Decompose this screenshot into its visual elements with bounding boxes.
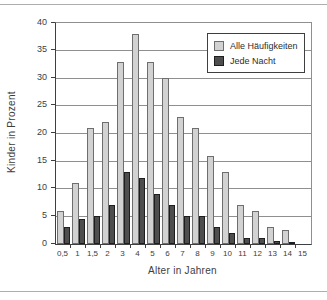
legend-swatch-icon [214, 41, 224, 51]
x-tick-label: 14 [280, 249, 296, 258]
y-tick-label: 15 [27, 156, 47, 165]
bar-jede-1 [79, 219, 85, 244]
top-rule [0, 4, 327, 5]
bar-alle-12 [252, 211, 259, 244]
bar-jede-12 [259, 238, 265, 244]
x-tick-mark [100, 245, 101, 248]
bar-jede-4 [139, 178, 145, 244]
x-tick-mark [85, 245, 86, 248]
x-tick-label: 7 [175, 249, 191, 258]
gridline-30 [56, 78, 311, 79]
legend-item-jede-nacht: Jede Nacht [214, 56, 298, 66]
x-tick-label: 9 [205, 249, 221, 258]
y-tick-mark [51, 187, 55, 188]
bar-alle-7 [177, 117, 184, 244]
gridline-25 [56, 105, 311, 106]
bar-alle-9 [207, 156, 214, 244]
bar-alle-2 [102, 122, 109, 244]
bar-alle-1 [72, 183, 79, 244]
bar-alle-10 [222, 172, 229, 244]
y-tick-mark [51, 104, 55, 105]
bar-jede-14 [289, 242, 295, 244]
bar-jede-13 [274, 241, 280, 244]
y-tick-label: 0 [27, 239, 47, 248]
legend-item-alle-haeufigkeiten: Alle Häufigkeiten [214, 41, 298, 51]
bar-alle-0,5 [57, 211, 64, 244]
bar-jede-5 [154, 194, 160, 244]
x-tick-label: 3 [115, 249, 131, 258]
y-tick-label: 20 [27, 128, 47, 137]
x-tick-label: 8 [190, 249, 206, 258]
x-tick-mark [265, 245, 266, 248]
bar-jede-10 [229, 233, 235, 244]
x-tick-mark [295, 245, 296, 248]
x-tick-mark [145, 245, 146, 248]
x-tick-label: 1 [70, 249, 86, 258]
legend-label: Alle Häufigkeiten [230, 41, 298, 51]
y-tick-mark [51, 215, 55, 216]
bar-alle-3 [117, 62, 124, 244]
bar-jede-1,5 [94, 216, 100, 244]
x-tick-label: 2 [100, 249, 116, 258]
x-tick-mark [160, 245, 161, 248]
y-tick-label: 25 [27, 100, 47, 109]
y-tick-mark [51, 243, 55, 244]
figure: Kinder in Prozent Alter in Jahren Alle H… [0, 0, 327, 300]
y-tick-label: 30 [27, 73, 47, 82]
x-tick-label: 6 [160, 249, 176, 258]
x-tick-mark [130, 245, 131, 248]
bottom-rule [0, 291, 327, 292]
y-axis-title: Kinder in Prozent [6, 57, 18, 207]
x-tick-label: 5 [145, 249, 161, 258]
y-tick-label: 10 [27, 183, 47, 192]
y-tick-mark [51, 132, 55, 133]
x-tick-label: 1,5 [85, 249, 101, 258]
y-tick-mark [51, 160, 55, 161]
bar-alle-14 [282, 230, 289, 244]
bar-alle-13 [267, 227, 274, 244]
bar-jede-6 [169, 205, 175, 244]
bar-alle-8 [192, 128, 199, 244]
bar-jede-11 [244, 238, 250, 244]
x-tick-mark [220, 245, 221, 248]
x-tick-mark [70, 245, 71, 248]
bar-jede-0,5 [64, 227, 70, 244]
x-tick-label: 11 [235, 249, 251, 258]
x-tick-label: 12 [250, 249, 266, 258]
bar-jede-3 [124, 172, 130, 244]
y-tick-mark [51, 77, 55, 78]
legend: Alle HäufigkeitenJede Nacht [207, 33, 305, 73]
y-tick-label: 35 [27, 45, 47, 54]
x-tick-label: 13 [265, 249, 281, 258]
x-tick-label: 0,5 [55, 249, 71, 258]
bar-alle-4 [132, 34, 139, 244]
x-tick-label: 10 [220, 249, 236, 258]
x-tick-label: 15 [295, 249, 311, 258]
bar-alle-11 [237, 205, 244, 244]
bar-jede-8 [199, 216, 205, 244]
x-tick-mark [235, 245, 236, 248]
bar-alle-5 [147, 62, 154, 244]
x-tick-label: 4 [130, 249, 146, 258]
bar-alle-6 [162, 78, 169, 244]
x-tick-mark [205, 245, 206, 248]
x-tick-mark [190, 245, 191, 248]
y-tick-mark [51, 49, 55, 50]
y-tick-mark [51, 22, 55, 23]
y-tick-label: 40 [27, 18, 47, 27]
bar-alle-1,5 [87, 128, 94, 244]
bar-jede-2 [109, 205, 115, 244]
x-tick-mark [280, 245, 281, 248]
x-tick-mark [175, 245, 176, 248]
bar-jede-9 [214, 227, 220, 244]
x-axis-title: Alter in Jahren [55, 265, 310, 276]
y-tick-label: 5 [27, 211, 47, 220]
x-tick-mark [115, 245, 116, 248]
legend-swatch-icon [214, 56, 224, 66]
x-tick-mark [250, 245, 251, 248]
bar-jede-7 [184, 216, 190, 244]
legend-label: Jede Nacht [230, 56, 276, 66]
